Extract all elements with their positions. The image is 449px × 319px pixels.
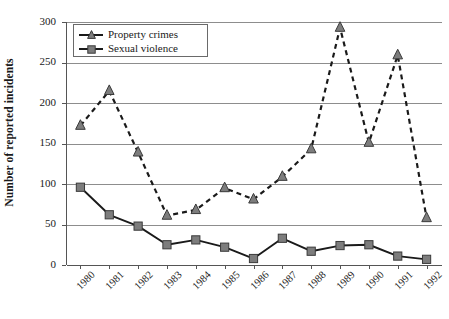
- x-tick-mark: [254, 265, 255, 269]
- gridline: [67, 225, 442, 226]
- legend-item-property-crimes: Property crimes: [79, 27, 203, 41]
- x-tick-mark: [311, 265, 312, 269]
- legend-label-property-crimes: Property crimes: [108, 28, 178, 41]
- gridline: [67, 144, 442, 145]
- y-tick-label: 300: [18, 15, 56, 27]
- x-tick-mark: [282, 265, 283, 269]
- y-tick-label: 150: [18, 136, 56, 148]
- y-tick-label: 200: [18, 96, 56, 108]
- x-tick-mark: [80, 265, 81, 269]
- plot-area: [66, 22, 441, 265]
- gridline: [67, 184, 442, 185]
- gridline: [67, 22, 442, 23]
- y-tick-label: 50: [18, 217, 56, 229]
- y-tick-label: 250: [18, 55, 56, 67]
- legend: Property crimes Sexual violence: [73, 24, 208, 57]
- x-tick-mark: [109, 265, 110, 269]
- x-tick-mark: [369, 265, 370, 269]
- triangle-marker-icon: [79, 28, 103, 40]
- legend-label-sexual-violence: Sexual violence: [108, 42, 178, 55]
- y-axis-title: Number of reported incidents: [0, 0, 18, 265]
- y-tick-label: 100: [18, 177, 56, 189]
- x-tick-mark: [167, 265, 168, 269]
- gridline: [67, 103, 442, 104]
- x-tick-mark: [340, 265, 341, 269]
- gridline: [67, 63, 442, 64]
- legend-item-sexual-violence: Sexual violence: [79, 41, 203, 55]
- gridline: [67, 265, 442, 266]
- y-tick-mark: [62, 265, 66, 266]
- x-tick-mark: [225, 265, 226, 269]
- x-tick-mark: [196, 265, 197, 269]
- y-tick-label: 0: [18, 258, 56, 270]
- x-tick-mark: [138, 265, 139, 269]
- x-tick-mark: [398, 265, 399, 269]
- square-marker-icon: [79, 42, 103, 54]
- x-tick-mark: [427, 265, 428, 269]
- line-chart: Number of reported incidents 05010015020…: [0, 0, 449, 319]
